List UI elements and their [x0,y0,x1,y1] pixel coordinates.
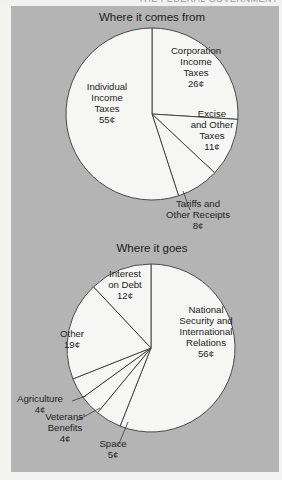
slice-label-veterans-benefits: Veterans'Benefits4¢ [45,411,85,444]
slice-label-space: Space5¢ [99,438,126,460]
pie-chart-spending: Where it goes NationalSecurity andIntern… [17,242,235,460]
chart-title-income: Where it comes from [99,11,205,23]
chart-title-spending: Where it goes [117,242,188,254]
pie-chart-income: Where it comes from CorporationIncomeTax… [66,11,238,231]
charts-canvas: Where it comes from CorporationIncomeTax… [0,0,282,480]
slice-label-tariffs-and-other-receipts: Tariffs andOther Receipts8¢ [166,198,230,231]
